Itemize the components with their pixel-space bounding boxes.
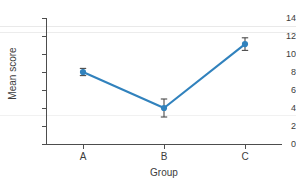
data-point-b	[161, 105, 167, 111]
data-point-c	[242, 41, 248, 47]
data-point-a	[80, 69, 86, 75]
data-series-layer	[0, 0, 296, 186]
series-line-mean-score	[83, 44, 245, 108]
line-chart-with-error-bars: 14 12 10 8 6 4 2 0 A B C Mean score Grou…	[0, 0, 296, 186]
